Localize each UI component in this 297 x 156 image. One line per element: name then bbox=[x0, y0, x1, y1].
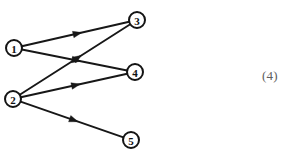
node-label: 4 bbox=[132, 67, 138, 79]
graph-node-4[interactable]: 4 bbox=[127, 64, 143, 80]
node-label: 2 bbox=[10, 94, 16, 106]
graph-edge-1-to-3 bbox=[22, 22, 129, 46]
edge-arrowhead bbox=[72, 31, 82, 37]
equation-number-label: (4) bbox=[262, 69, 278, 82]
figure-container: 12345 (4) bbox=[0, 0, 297, 156]
edge-arrowhead bbox=[71, 83, 81, 89]
graph-node-1[interactable]: 1 bbox=[6, 40, 22, 56]
node-label: 3 bbox=[134, 15, 140, 27]
graph-node-2[interactable]: 2 bbox=[5, 91, 21, 107]
directed-graph: 12345 bbox=[0, 0, 297, 156]
edge-layer bbox=[20, 22, 131, 138]
graph-edge-2-to-4 bbox=[21, 74, 127, 98]
graph-node-5[interactable]: 5 bbox=[123, 132, 139, 148]
node-label: 5 bbox=[128, 135, 134, 147]
graph-node-3[interactable]: 3 bbox=[129, 12, 145, 28]
edge-arrowhead bbox=[69, 116, 79, 122]
graph-edge-2-to-5 bbox=[21, 102, 124, 138]
node-label: 1 bbox=[11, 43, 17, 55]
